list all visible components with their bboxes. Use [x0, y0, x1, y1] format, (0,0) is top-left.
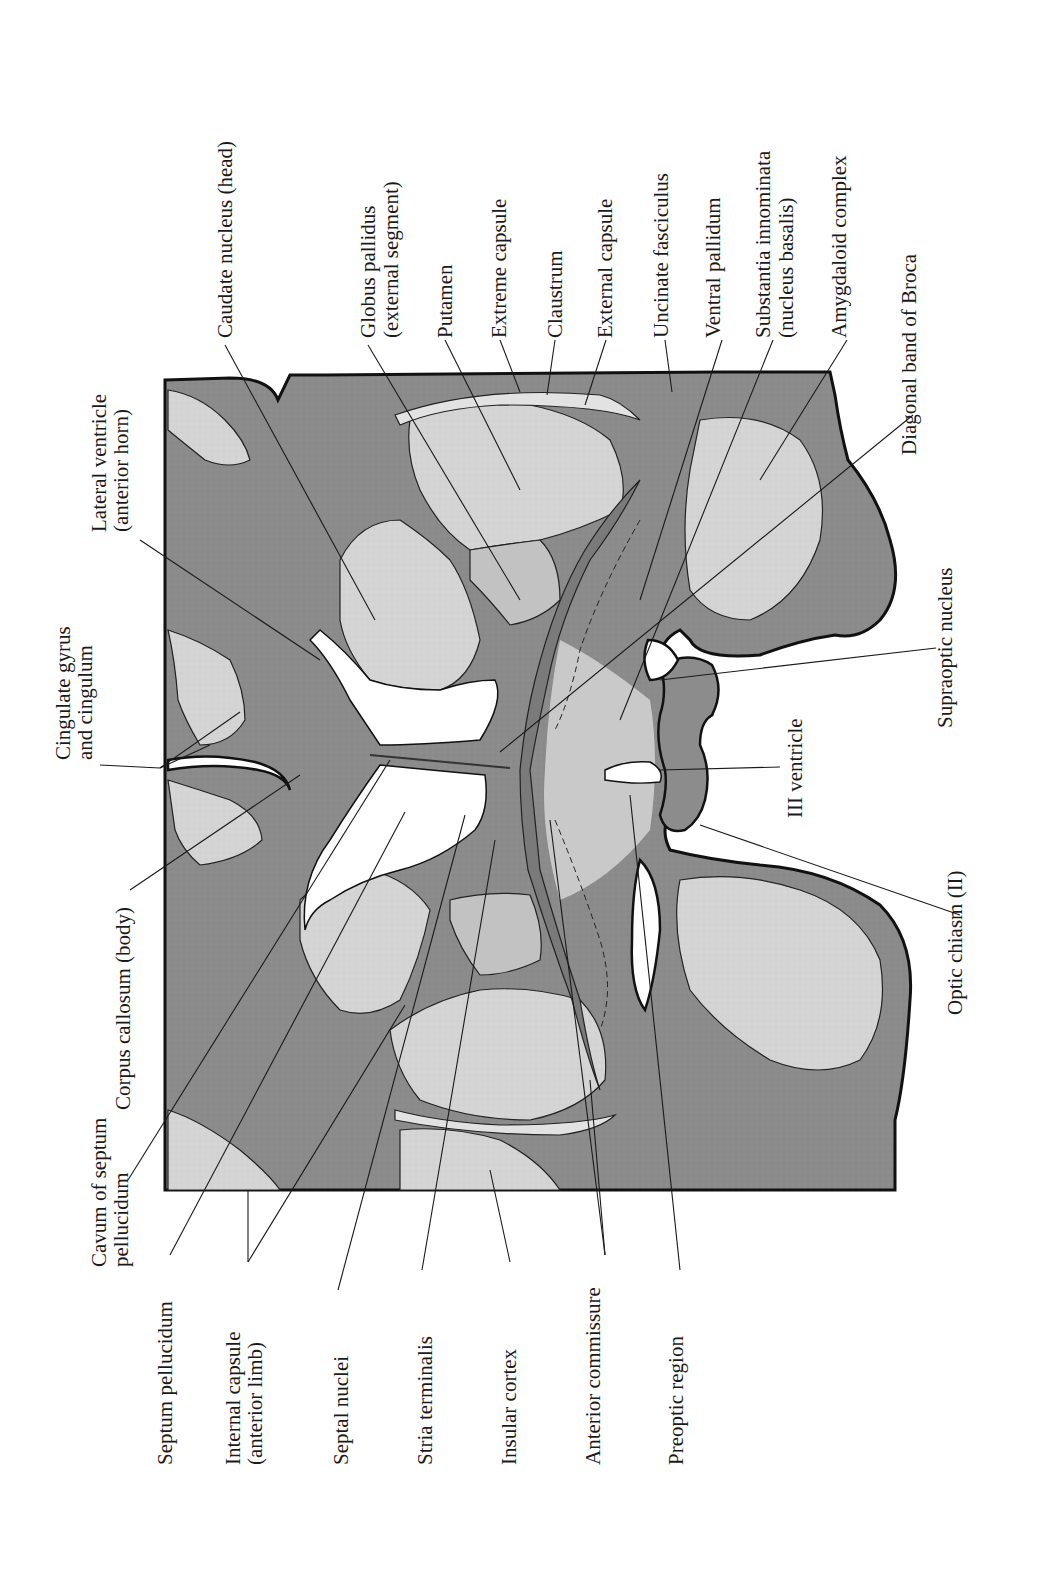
label-diagonal-band: Diagonal band of Broca: [897, 253, 921, 455]
label-lateral-ventricle: Lateral ventricle: [87, 394, 111, 532]
label-internal-capsule-2: (anterior limb): [243, 1342, 267, 1465]
label-caudate-nucleus: Caudate nucleus (head): [213, 141, 237, 338]
label-putamen: Putamen: [433, 264, 457, 338]
label-uncinate-fasciculus: Uncinate fasciculus: [649, 173, 673, 338]
label-septal-nuclei: Septal nuclei: [329, 1356, 353, 1465]
label-internal-capsule: Internal capsule: [221, 1331, 245, 1465]
label-substantia-innominata: Substantia innominata: [751, 150, 775, 338]
label-ventral-pallidum: Ventral pallidum: [701, 197, 725, 338]
label-globus-pallidus: Globus pallidus: [356, 206, 380, 338]
label-external-capsule: External capsule: [593, 199, 617, 338]
label-optic-chiasm: Optic chiasm (II): [943, 870, 967, 1015]
label-stria-terminalis: Stria terminalis: [413, 1336, 437, 1465]
label-lateral-ventricle-2: (anterior horn): [109, 409, 133, 532]
label-anterior-commissure: Anterior commissure: [581, 1287, 605, 1465]
label-cavum-septum-2: pellucidum: [109, 1173, 133, 1267]
label-cingulate-gyrus: Cingulate gyrus: [51, 626, 75, 760]
label-third-ventricle: III ventricle: [783, 718, 807, 818]
label-corpus-callosum: Corpus callosum (body): [111, 907, 135, 1110]
label-claustrum: Claustrum: [543, 251, 567, 339]
label-amygdaloid-complex: Amygdaloid complex: [827, 155, 851, 338]
label-extreme-capsule: Extreme capsule: [487, 199, 511, 338]
label-substantia-innominata-2: (nucleus basalis): [774, 197, 798, 338]
label-globus-pallidus-2: (external segment): [379, 181, 403, 338]
label-cavum-septum: Cavum of septum: [87, 1118, 111, 1267]
labels-bottom: Septum pellucidum Internal capsule (ante…: [153, 1287, 688, 1465]
label-insular-cortex: Insular cortex: [497, 1348, 521, 1465]
label-septum-pellucidum: Septum pellucidum: [153, 1301, 177, 1465]
leader-cingulate-a: [100, 765, 160, 768]
label-cingulate-gyrus-2: and cingulum: [73, 645, 97, 760]
optic-chiasm-shape: [658, 658, 718, 832]
label-preoptic-region: Preoptic region: [664, 1336, 688, 1465]
label-supraoptic-nucleus: Supraoptic nucleus: [933, 568, 957, 728]
brain-coronal-section-figure: Lateral ventricle (anterior horn) Cingul…: [0, 0, 1042, 1596]
labels-left: Corpus callosum (body) Cavum of septum p…: [87, 907, 135, 1267]
